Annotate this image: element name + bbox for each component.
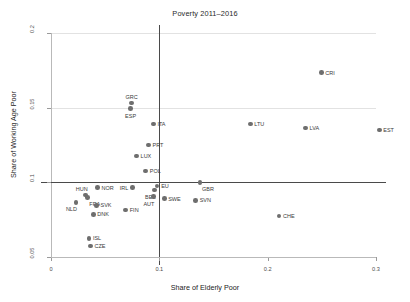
y-axis-title: Share of Working Age Poor [9, 50, 18, 220]
data-point-che[interactable] [277, 214, 282, 219]
data-point-fra[interactable] [85, 195, 90, 200]
data-point-label-svk: SVK [101, 202, 112, 208]
data-point-label-nld: NLD [66, 206, 77, 212]
data-point-swe[interactable] [162, 196, 167, 201]
data-point-prt[interactable] [146, 143, 151, 148]
y-tick-mark-0.15 [47, 108, 51, 109]
data-point-est[interactable] [377, 128, 382, 133]
data-point-label-cri: CRI [325, 70, 334, 76]
y-tick-mark-0.2 [47, 33, 51, 34]
gridline-y-0.15 [51, 108, 376, 109]
data-point-label-nor: NOR [102, 185, 114, 191]
data-point-nld[interactable] [74, 200, 79, 205]
data-point-fin[interactable] [123, 208, 128, 213]
poverty-scatter-chart: Poverty 2011–2016 CRIGRCESPITALTULVAESTP… [0, 0, 410, 302]
data-point-label-isl: ISL [93, 235, 101, 241]
data-point-label-est: EST [383, 127, 394, 133]
data-point-ltu[interactable] [248, 122, 253, 127]
data-point-label-svn: SVN [200, 197, 211, 203]
data-point-label-grc: GRC [126, 94, 138, 100]
data-point-isl[interactable] [87, 236, 92, 241]
data-point-gbr[interactable] [198, 180, 203, 185]
data-point-label-fin: FIN [130, 207, 139, 213]
data-point-label-cze: CZE [95, 243, 106, 249]
data-point-svn[interactable] [193, 198, 198, 203]
x-axis-line [51, 257, 376, 258]
data-point-label-che: CHE [283, 213, 295, 219]
data-point-svk[interactable] [94, 203, 99, 208]
data-point-cri[interactable] [319, 70, 324, 75]
chart-title: Poverty 2011–2016 [0, 9, 410, 18]
x-tick-mark-0.3 [376, 257, 377, 261]
data-point-label-dnk: DNK [97, 211, 109, 217]
data-point-label-lva: LVA [310, 125, 320, 131]
data-point-label-swe: SWE [168, 196, 181, 202]
x-axis-title: Share of Elderly Poor [0, 283, 410, 292]
x-tick-label-0.2: 0.2 [256, 266, 280, 272]
data-point-irl[interactable] [130, 185, 135, 190]
data-point-lva[interactable] [303, 126, 308, 131]
x-tick-label-0.3: 0.3 [364, 266, 388, 272]
gridline-y-0.2 [51, 33, 376, 34]
data-point-label-aut: AUT [143, 201, 154, 207]
data-point-label-ltu: LTU [254, 121, 264, 127]
data-point-esp[interactable] [128, 106, 133, 111]
data-point-label-prt: PRT [153, 142, 164, 148]
plot-area: CRIGRCESPITALTULVAESTPRTLUXPOLGBREUNORIR… [51, 33, 376, 257]
data-point-dnk[interactable] [91, 212, 96, 217]
y-tick-mark-0.1 [47, 182, 51, 183]
y-tick-label-0.15: 0.15 [29, 93, 35, 115]
data-point-label-pol: POL [150, 168, 161, 174]
x-tick-label-0.1: 0.1 [147, 266, 171, 272]
y-axis-line [51, 33, 52, 257]
y-tick-label-0.05: 0.05 [29, 242, 35, 264]
data-point-cze[interactable] [88, 244, 93, 249]
data-point-nor[interactable] [95, 185, 100, 190]
data-point-label-esp: ESP [125, 113, 136, 119]
data-point-pol[interactable] [143, 169, 148, 174]
reference-line-y-0.1 [41, 182, 386, 183]
x-tick-label-0: 0 [39, 266, 63, 272]
data-point-aut[interactable] [151, 194, 156, 199]
data-point-label-lux: LUX [141, 153, 152, 159]
data-point-label-ita: ITA [157, 121, 165, 127]
data-point-lux[interactable] [134, 154, 139, 159]
data-point-grc[interactable] [129, 101, 134, 106]
data-point-label-gbr: GBR [202, 186, 214, 192]
data-point-label-irl: IRL [120, 185, 129, 191]
data-point-label-eu: EU [161, 183, 169, 189]
data-point-bel[interactable] [152, 188, 157, 193]
data-point-ita[interactable] [151, 122, 156, 127]
y-tick-label-0.2: 0.2 [29, 18, 35, 40]
data-point-label-hun: HUN [76, 186, 88, 192]
y-tick-label-0.1: 0.1 [29, 167, 35, 189]
